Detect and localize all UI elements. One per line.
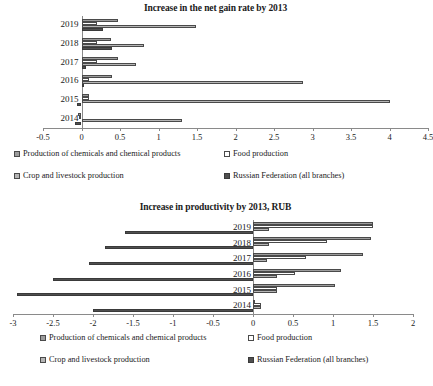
series-3-swatch	[224, 173, 230, 179]
x-axis-tick	[333, 314, 334, 317]
x-axis-tick-label: 4.5	[423, 132, 433, 142]
category-label: 2015	[0, 94, 79, 104]
legend-item[interactable]: Crop and livestock production	[40, 356, 150, 364]
bar	[82, 100, 390, 103]
bar-group	[43, 16, 428, 35]
x-axis-tick	[82, 128, 83, 131]
category-label: 2018	[0, 238, 251, 248]
category-label: 2015	[0, 285, 251, 295]
legend-label: Production of chemicals and chemical pro…	[49, 334, 206, 342]
legend-label: Production of chemicals and chemical pro…	[23, 150, 180, 158]
x-axis-tick	[351, 128, 352, 131]
x-axis-tick	[213, 314, 214, 317]
legend-net-gain-rate: Production of chemicals and chemical pro…	[0, 150, 431, 190]
legend-label: Crop and livestock production	[49, 356, 150, 364]
bar	[82, 63, 137, 66]
x-axis-tick-label: 1.5	[368, 318, 379, 328]
x-axis-tick	[13, 314, 14, 317]
legend-item[interactable]: Production of chemicals and chemical pro…	[14, 150, 180, 158]
bar	[253, 259, 267, 262]
bar-group	[43, 72, 428, 91]
x-axis-tick	[159, 128, 160, 131]
legend-label: Russian Federation (all branches)	[257, 356, 368, 364]
legend-label: Russian Federation (all branches)	[233, 172, 344, 180]
bar	[82, 119, 182, 122]
x-axis-tick-label: 2.5	[269, 132, 280, 142]
x-axis-tick	[53, 314, 54, 317]
x-axis-tick-label: 0.5	[115, 132, 126, 142]
bar	[82, 28, 104, 31]
bar	[253, 228, 269, 231]
bar-group	[43, 53, 428, 72]
x-axis-tick-label: 0	[251, 318, 255, 328]
series-0-swatch	[14, 151, 20, 157]
x-axis-tick-label: 1	[331, 318, 335, 328]
x-axis-tick-label: 3	[310, 132, 314, 142]
chart-title-net-gain-rate: Increase in the net gain rate by 2013	[0, 0, 431, 13]
chart-net-gain-rate: Increase in the net gain rate by 2013 -0…	[0, 0, 431, 190]
x-axis-tick	[93, 314, 94, 317]
category-label: 2017	[0, 57, 79, 67]
x-axis-tick-label: 2	[233, 132, 237, 142]
x-axis-tick	[43, 128, 44, 131]
legend-item[interactable]: Food production	[248, 334, 312, 342]
bar	[82, 84, 84, 87]
legend-item[interactable]: Russian Federation (all branches)	[224, 172, 344, 180]
series-0-swatch	[40, 335, 46, 341]
x-axis-tick	[253, 314, 254, 317]
series-1-swatch	[248, 335, 254, 341]
category-label: 2014	[0, 300, 251, 310]
x-axis-tick-label: -1.5	[126, 318, 139, 328]
x-axis-net-gain-rate: -0.500.511.522.533.544.5	[43, 128, 428, 142]
x-axis-tick-label: -0.5	[206, 318, 219, 328]
x-axis-tick	[173, 314, 174, 317]
x-axis-tick-label: 4	[387, 132, 391, 142]
x-axis-tick	[390, 128, 391, 131]
x-axis-tick-label: 2	[411, 318, 415, 328]
legend-item[interactable]: Production of chemicals and chemical pro…	[40, 334, 206, 342]
legend-item[interactable]: Russian Federation (all branches)	[248, 356, 368, 364]
x-axis-tick-label: -2	[89, 318, 96, 328]
x-axis-tick-label: 1	[156, 132, 160, 142]
category-label: 2019	[0, 222, 251, 232]
legend-item[interactable]: Food production	[224, 150, 288, 158]
x-axis-tick	[274, 128, 275, 131]
category-label: 2016	[0, 75, 79, 85]
x-axis-tick-label: 1.5	[192, 132, 203, 142]
x-axis-tick-label: -2.5	[46, 318, 59, 328]
x-axis-tick-label: 0.5	[288, 318, 299, 328]
legend-item[interactable]: Crop and livestock production	[14, 172, 124, 180]
legend-label: Crop and livestock production	[23, 172, 124, 180]
x-axis-tick	[373, 314, 374, 317]
chart-productivity: Increase in productivity by 2013, RUB -3…	[0, 190, 431, 386]
x-axis-tick-label: -3	[9, 318, 16, 328]
plot-area-net-gain-rate	[43, 16, 428, 128]
x-axis-tick	[120, 128, 121, 131]
chart-title-productivity: Increase in productivity by 2013, RUB	[0, 190, 431, 212]
x-axis-tick-label: -1	[169, 318, 176, 328]
legend-label: Food production	[257, 334, 312, 342]
x-axis-tick	[428, 128, 429, 131]
bar	[82, 47, 112, 50]
bar-group	[43, 109, 428, 128]
category-label: 2014	[0, 113, 79, 123]
bar	[253, 275, 277, 278]
x-axis-tick-label: 0	[79, 132, 83, 142]
x-axis-tick	[293, 314, 294, 317]
x-axis-tick	[236, 128, 237, 131]
category-label: 2018	[0, 38, 79, 48]
bar-group	[43, 35, 428, 54]
bar	[253, 306, 261, 309]
category-label: 2019	[0, 19, 79, 29]
x-axis-tick	[133, 314, 134, 317]
bar	[253, 290, 277, 293]
bar-group	[43, 91, 428, 110]
x-axis-tick-label: 3.5	[346, 132, 357, 142]
legend-label: Food production	[233, 150, 288, 158]
x-axis-tick-label: -0.5	[36, 132, 49, 142]
bar	[82, 66, 87, 69]
series-2-swatch	[14, 173, 20, 179]
x-axis-tick	[413, 314, 414, 317]
bar	[82, 81, 304, 84]
category-label: 2017	[0, 253, 251, 263]
